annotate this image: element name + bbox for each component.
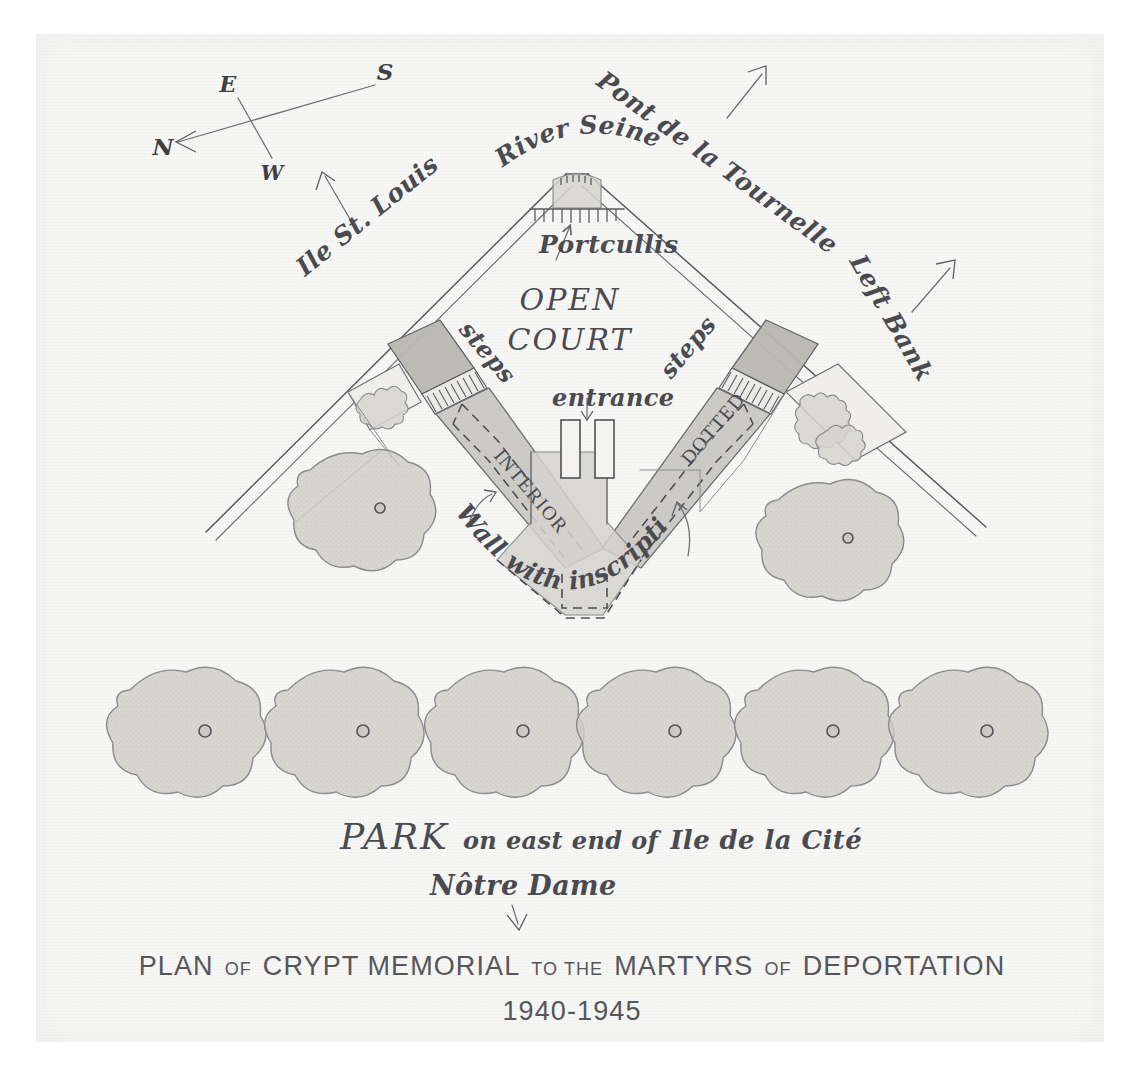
park-caption-word-rest: on east end of [463, 826, 662, 855]
portcullis-gatehouse [553, 174, 601, 208]
ile-st-louis-label: Ile St. Louis [290, 150, 444, 283]
title-part-martyrs: MARTYRS [614, 951, 753, 981]
park-caption: PARK on east end of Ile de la Cité [339, 816, 862, 857]
title-block: PLAN OF CRYPT MEMORIAL TO THE MARTYRS OF… [139, 951, 1006, 1026]
title-part-deportation: DEPORTATION [803, 951, 1006, 981]
title-part-plan: PLAN [139, 951, 214, 981]
compass-label-north: N [151, 133, 174, 160]
park-tree [735, 667, 895, 797]
compass-needle-ew [238, 98, 272, 158]
steps-label-right: steps [653, 310, 722, 385]
park-tree [425, 667, 585, 797]
tournelle-arrow-shaft [727, 74, 762, 118]
entrance-label: entrance [552, 383, 675, 412]
title-line-2-dates: 1940-1945 [502, 996, 641, 1026]
tree-canopy-grain [577, 667, 737, 797]
notre-dame-arrow-shaft [512, 905, 518, 924]
park-tree-row [107, 667, 1049, 797]
entrance-door-left [561, 420, 580, 478]
compass-label-west: W [261, 161, 286, 185]
compass-needle-ns [178, 85, 375, 142]
left-bank-label: Left Bank [843, 249, 939, 386]
open-court-label-line1: OPEN [520, 282, 621, 317]
tree-canopy-grain [107, 667, 267, 797]
title-part-to-the: TO THE [531, 959, 603, 979]
title-part-crypt-memorial: CRYPT MEMORIAL [263, 951, 520, 981]
tree-canopy-grain [425, 667, 585, 797]
left-bank-arrow-shaft [912, 268, 950, 312]
tree-canopy-grain [735, 667, 895, 797]
label-ile-st-louis: Ile St. Louis [290, 150, 444, 283]
tree-canopy-grain [756, 480, 904, 601]
entrance-door-right [595, 420, 614, 478]
park-tree [889, 667, 1049, 797]
tree-trunk [517, 725, 529, 737]
tree-trunk [827, 725, 839, 737]
title-line-1: PLAN OF CRYPT MEMORIAL TO THE MARTYRS OF… [139, 951, 1006, 981]
planting-bed-right [786, 364, 906, 466]
tree-canopy-grain [889, 667, 1049, 797]
tree-trunk [843, 533, 853, 543]
label-notre-dame: Nôtre Dame [429, 870, 617, 930]
wall-inscription-arrowhead-left [484, 490, 496, 502]
tree-upper-left [288, 450, 436, 571]
park-tree [577, 667, 737, 797]
notre-dame-label: Nôtre Dame [429, 870, 617, 901]
compass-rose: E S N W [151, 58, 393, 185]
tree-trunk [375, 503, 385, 513]
open-court-label-line2: COURT [508, 322, 633, 357]
left-bank-arrowhead [936, 260, 955, 279]
compass-label-east: E [219, 71, 238, 97]
title-part-of-2: OF [764, 959, 791, 979]
park-caption-word-large: PARK [339, 816, 449, 857]
title-part-of-1: OF [225, 959, 252, 979]
portcullis-label: Portcullis [538, 230, 679, 259]
site-plan-drawing: E S N W [0, 0, 1143, 1072]
tree-trunk [357, 725, 369, 737]
tree-canopy-grain [288, 450, 436, 571]
park-caption-text: PARK on east end of Ile de la Cité [339, 816, 862, 857]
label-left-bank: Left Bank [843, 249, 955, 386]
tree-upper-right [756, 480, 904, 601]
compass-label-south: S [377, 58, 394, 85]
scan-sheet: E S N W [0, 0, 1143, 1072]
tree-trunk [199, 725, 211, 737]
park-caption-place: Ile de la Cité [669, 825, 862, 855]
tree-trunk [981, 725, 993, 737]
park-tree [265, 667, 425, 797]
tournelle-arrowhead [748, 66, 766, 85]
tree-trunk [669, 725, 681, 737]
tree-canopy-grain [265, 667, 425, 797]
park-tree [107, 667, 267, 797]
